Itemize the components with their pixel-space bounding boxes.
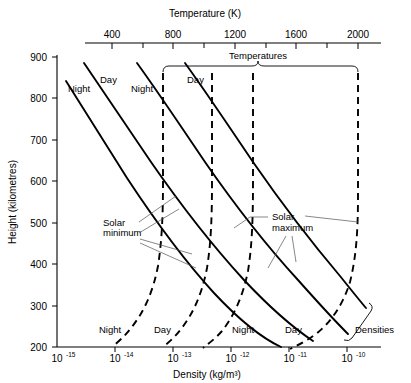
lower-curve-labels: Night Day Night Day <box>99 324 302 335</box>
bottom-density-axis: 10 -15 10 -14 10 -13 10 -12 10 -11 10 -1… <box>51 347 381 380</box>
left-height-axis: 900 800 700 600 500 400 300 200 Height (… <box>7 52 57 353</box>
temperatures-bracket-label: Temperatures <box>229 50 287 61</box>
top-axis-label-400: 400 <box>104 29 121 40</box>
top-axis-label-2000: 2000 <box>347 29 370 40</box>
bottom-axis-label-e12-base: 10 <box>225 353 237 364</box>
densities-bracket-path <box>344 303 372 341</box>
left-axis-label-600: 600 <box>30 176 47 187</box>
curve-label-temp-day-2: Day <box>285 324 302 335</box>
bottom-axis-label-e14: 10 -14 <box>109 351 133 364</box>
solar-maximum-label-line1: Solar <box>272 211 294 222</box>
bottom-axis-label-e14-base: 10 <box>109 353 121 364</box>
densities-bracket-label: Densities <box>355 324 394 335</box>
solar-maximum-label-line2: maximum <box>272 222 313 233</box>
bottom-axis-title: Density (kg/m³) <box>173 369 241 380</box>
bottom-axis-label-e13-exp: -13 <box>182 351 192 358</box>
density-solar-minimum-night-curve <box>66 81 281 347</box>
top-axis-label-800: 800 <box>165 29 182 40</box>
left-axis-label-400: 400 <box>30 259 47 270</box>
bottom-axis-label-e15-base: 10 <box>51 353 63 364</box>
bottom-axis-label-e13-base: 10 <box>167 353 179 364</box>
left-axis-label-800: 800 <box>30 93 47 104</box>
bottom-axis-label-e13: 10 -13 <box>167 351 191 364</box>
curve-label-density-day-2: Day <box>187 74 204 85</box>
solar-maximum-leader-left-2 <box>234 217 250 228</box>
bottom-axis-label-e11: 10 -11 <box>283 351 307 364</box>
left-axis-label-900: 900 <box>30 52 47 63</box>
densities-bracket: Densities <box>344 303 394 341</box>
curve-label-temp-night-2: Night <box>232 324 255 335</box>
top-axis-title: Temperature (K) <box>169 8 241 19</box>
curve-label-density-day-1: Day <box>100 74 117 85</box>
temperatures-bracket: Temperatures <box>163 50 358 72</box>
left-axis-label-500: 500 <box>30 218 47 229</box>
left-axis-label-200: 200 <box>30 342 47 353</box>
bottom-axis-label-e11-exp: -11 <box>298 351 307 358</box>
temperatures-bracket-path <box>163 61 358 72</box>
left-axis-label-700: 700 <box>30 135 47 146</box>
left-axis-label-300: 300 <box>30 301 47 312</box>
bottom-axis-label-e10: 10 -10 <box>341 351 365 364</box>
curve-label-temp-night-1: Night <box>99 324 122 335</box>
upper-curve-labels: Night Day Night Day <box>68 74 204 94</box>
bottom-axis-label-e11-base: 10 <box>283 353 295 364</box>
top-axis-label-1600: 1600 <box>285 29 308 40</box>
solar-minimum-annotation: Solar minimum <box>103 196 196 268</box>
bottom-axis-label-e15: 10 -15 <box>51 351 75 364</box>
bottom-axis-label-e14-exp: -14 <box>124 351 134 358</box>
density-curves <box>66 63 366 347</box>
density-solar-minimum-day-curve <box>84 63 313 341</box>
top-temperature-axis: Temperature (K) 400 800 1200 1600 2000 <box>85 8 381 49</box>
atmosphere-density-temperature-figure: Temperature (K) 400 800 1200 1600 2000 9… <box>0 0 411 383</box>
temperature-solar-minimum-night-curve <box>113 73 163 346</box>
left-axis-title: Height (kilometres) <box>7 160 18 244</box>
solar-maximum-leader-down-2 <box>292 236 296 262</box>
curve-label-density-night-2: Night <box>131 83 154 94</box>
solar-minimum-label-line2: minimum <box>103 227 142 238</box>
solar-minimum-leader-upper-2 <box>139 209 179 233</box>
bottom-axis-label-e15-exp: -15 <box>66 351 76 358</box>
solar-minimum-leader-upper <box>139 196 176 222</box>
bottom-axis-label-e10-exp: -10 <box>356 351 366 358</box>
bottom-axis-label-e12: 10 -12 <box>225 351 249 364</box>
bottom-axis-label-e10-base: 10 <box>341 353 353 364</box>
bottom-axis-label-e12-exp: -12 <box>240 351 250 358</box>
curve-label-density-night-1: Night <box>68 83 91 94</box>
top-axis-label-1200: 1200 <box>224 29 247 40</box>
curve-label-temp-day-1: Day <box>154 324 171 335</box>
temperature-solar-minimum-day-curve <box>163 73 212 347</box>
chart-svg: Temperature (K) 400 800 1200 1600 2000 9… <box>0 0 411 383</box>
